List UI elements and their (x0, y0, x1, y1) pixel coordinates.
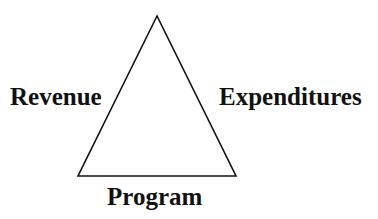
label-expenditures: Expenditures (219, 84, 362, 109)
label-revenue: Revenue (10, 84, 102, 109)
label-program: Program (107, 184, 202, 209)
triangle-diagram: Revenue Expenditures Program (0, 0, 378, 219)
